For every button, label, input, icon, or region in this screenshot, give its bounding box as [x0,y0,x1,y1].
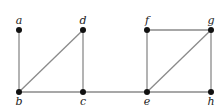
node-label-c: c [80,95,86,106]
node-label-b: b [15,95,22,106]
node-g [208,27,214,33]
edges-layer [19,30,211,92]
edge-e-g [147,30,211,92]
nodes-layer [16,27,214,95]
node-label-g: g [207,14,214,27]
node-label-h: h [207,95,214,106]
graph-diagram: adbcfgeh [0,0,224,106]
node-label-f: f [144,14,151,27]
node-label-d: d [79,14,86,27]
edge-b-d [19,30,83,92]
node-d [80,27,86,33]
node-label-e: e [144,95,151,106]
node-f [144,27,150,33]
node-label-a: a [16,14,23,27]
node-a [16,27,22,33]
